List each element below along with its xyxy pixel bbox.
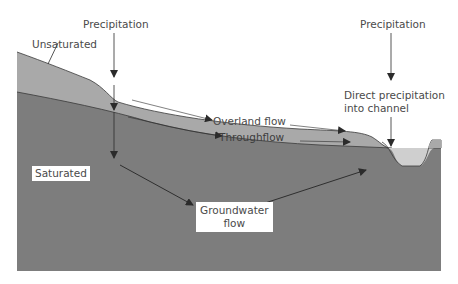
direct-precipitation-label: Direct precipitation into channel xyxy=(344,89,445,115)
unsaturated-label: Unsaturated xyxy=(32,38,97,51)
throughflow-label: Throughflow xyxy=(219,131,284,144)
right-bank xyxy=(428,140,441,148)
groundwater-flow-label: Groundwater flow xyxy=(196,202,273,232)
overland-flow-label: Overland flow xyxy=(213,115,286,128)
precipitation-label-right: Precipitation xyxy=(360,18,426,31)
precipitation-label-left: Precipitation xyxy=(83,18,149,31)
hydrology-diagram: Precipitation Unsaturated Precipitation … xyxy=(0,0,458,284)
saturated-label: Saturated xyxy=(32,166,90,181)
